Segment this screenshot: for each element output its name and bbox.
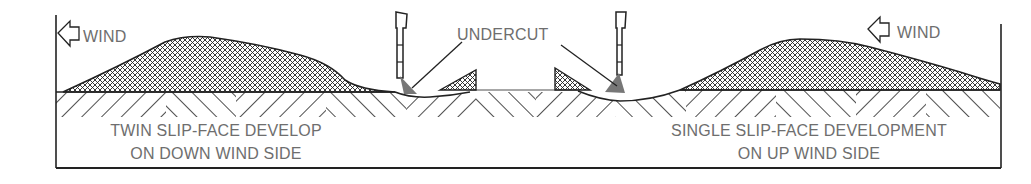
- right-caption-line1: SINGLE SLIP-FACE DEVELOPMENT: [671, 122, 947, 139]
- right-small-dune: [555, 68, 590, 90]
- wind-arrow-right-icon: [868, 17, 889, 42]
- cutter-left-icon: [396, 12, 417, 94]
- dune-diagram: WIND WIND UNDERCUT TWIN SLIP-FACE DEVELO…: [0, 0, 1031, 184]
- left-caption-line2: ON DOWN WIND SIDE: [130, 145, 301, 162]
- undercut-label: UNDERCUT: [457, 26, 548, 43]
- wind-label-right: WIND: [897, 24, 940, 41]
- cutter-right-icon: [605, 12, 626, 93]
- right-dune: [680, 39, 1000, 90]
- right-caption-line2: ON UP WIND SIDE: [738, 145, 880, 162]
- undercut-leaders: [412, 42, 617, 88]
- wind-label-left: WIND: [83, 28, 126, 45]
- diagram-canvas: WIND WIND UNDERCUT TWIN SLIP-FACE DEVELO…: [0, 0, 1031, 184]
- left-small-dune: [440, 70, 476, 90]
- left-caption-line1: TWIN SLIP-FACE DEVELOP: [110, 122, 322, 139]
- wind-arrow-left-icon: [58, 21, 79, 46]
